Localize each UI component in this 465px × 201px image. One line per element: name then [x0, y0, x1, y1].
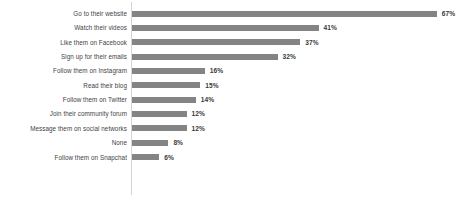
value-label: 8%	[173, 138, 183, 148]
category-label: Join their community forum	[3, 109, 127, 119]
category-label: Sign up for their emails	[3, 52, 127, 62]
category-label: Follow them on Snapchat	[3, 153, 127, 163]
value-label: 41%	[324, 23, 337, 33]
bar-row: Like them on Facebook37%	[0, 38, 465, 52]
value-label: 16%	[210, 66, 223, 76]
value-label: 67%	[442, 9, 455, 19]
bar-row: None8%	[0, 138, 465, 152]
value-label: 15%	[205, 81, 218, 91]
value-label: 6%	[164, 153, 174, 163]
horizontal-bar-chart: Go to their website67%Watch their videos…	[0, 0, 465, 201]
bar	[132, 97, 196, 103]
value-label: 12%	[192, 124, 205, 134]
category-label: Follow them on Twitter	[3, 95, 127, 105]
category-label: None	[3, 138, 127, 148]
bar	[132, 154, 159, 160]
bar-row: Go to their website67%	[0, 9, 465, 23]
plot-area: Go to their website67%Watch their videos…	[0, 0, 465, 201]
bar-row: Join their community forum12%	[0, 109, 465, 123]
bar-row: Follow them on Twitter14%	[0, 95, 465, 109]
bar-row: Message them on social networks12%	[0, 124, 465, 138]
value-label: 32%	[283, 52, 296, 62]
bar-row: Follow them on Instagram16%	[0, 66, 465, 80]
value-label: 37%	[305, 38, 318, 48]
category-label: Watch their videos	[3, 23, 127, 33]
bar-row: Sign up for their emails32%	[0, 52, 465, 66]
category-label: Read their blog	[3, 81, 127, 91]
bar-row: Watch their videos41%	[0, 23, 465, 37]
bar	[132, 11, 437, 17]
value-label: 14%	[201, 95, 214, 105]
bar	[132, 82, 200, 88]
category-label: Message them on social networks	[3, 124, 127, 134]
bar	[132, 140, 168, 146]
bar	[132, 125, 187, 131]
category-label: Follow them on Instagram	[3, 66, 127, 76]
bar	[132, 54, 278, 60]
bar	[132, 25, 319, 31]
bar	[132, 111, 187, 117]
category-label: Like them on Facebook	[3, 38, 127, 48]
bar	[132, 68, 205, 74]
bar-row: Follow them on Snapchat6%	[0, 153, 465, 167]
bar-row: Read their blog15%	[0, 81, 465, 95]
value-label: 12%	[192, 109, 205, 119]
bar	[132, 39, 300, 45]
category-label: Go to their website	[3, 9, 127, 19]
